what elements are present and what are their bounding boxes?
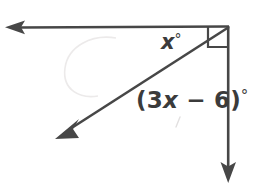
geometry-diagram: x° (3x − 6)°	[0, 0, 260, 189]
scan-artifact-arc-icon	[65, 37, 116, 96]
expression-operator: −	[186, 87, 205, 113]
expression-variable: x	[163, 87, 178, 113]
expression-close-paren: )	[230, 87, 241, 113]
expression-constant: 6	[214, 87, 230, 113]
diagonal-ray-arrowhead-icon	[55, 119, 79, 139]
angle-label-x-degree-icon: °	[175, 31, 182, 47]
angle-label-expression: (3x − 6)°	[136, 89, 249, 112]
angle-label-x-variable: x	[161, 30, 175, 54]
expression-open-paren: (	[136, 87, 147, 113]
diagonal-ray-down-left	[70, 27, 229, 129]
horizontal-ray-left	[20, 27, 229, 28]
expression-degree-icon: °	[241, 87, 249, 105]
scan-artifact-tick-icon	[176, 117, 180, 127]
expression-coefficient: 3	[147, 87, 163, 113]
angle-label-x: x°	[161, 32, 182, 53]
